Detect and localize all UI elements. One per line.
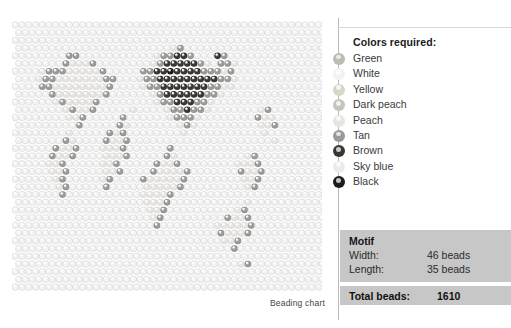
bead-grid-canvas xyxy=(12,21,322,291)
legend-item-brown: Brown xyxy=(340,143,511,158)
horizontal-divider xyxy=(338,27,511,28)
bead-swatch-icon xyxy=(333,68,345,80)
bead-swatch-icon xyxy=(333,84,345,96)
bead-grid xyxy=(12,21,322,291)
bead-swatch-icon xyxy=(333,115,345,127)
bead-swatch-icon xyxy=(333,176,345,188)
legend-item-white: White xyxy=(340,66,511,81)
bead-swatch-icon xyxy=(333,161,345,173)
total-beads-value: 1610 xyxy=(437,290,460,302)
bead-swatch-icon xyxy=(333,99,345,111)
colors-legend: Colors required: GreenWhiteYellowDark pe… xyxy=(340,36,511,190)
motif-row: Length:35 beads xyxy=(349,263,511,277)
total-beads-label: Total beads: xyxy=(349,290,410,302)
bead-swatch-icon xyxy=(333,53,345,65)
legend-item-peach: Peach xyxy=(340,113,511,128)
motif-row-key: Length: xyxy=(349,263,384,275)
legend-item-sky-blue: Sky blue xyxy=(340,159,511,174)
chart-caption: Beading chart xyxy=(0,298,325,308)
motif-row: Width:46 beads xyxy=(349,249,511,263)
motif-details-block: Motif Width:46 beadsLength:35 beads xyxy=(340,230,511,282)
legend-item-label: Peach xyxy=(353,114,383,126)
motif-heading: Motif xyxy=(349,235,511,247)
bead-swatch-icon xyxy=(333,130,345,142)
legend-item-tan: Tan xyxy=(340,128,511,143)
legend-item-label: Green xyxy=(353,52,382,64)
beading-chart-panel: Beading chart xyxy=(0,0,338,328)
total-beads-row: Total beads: 1610 xyxy=(340,286,511,305)
legend-item-label: Yellow xyxy=(353,83,383,95)
motif-row-value: 35 beads xyxy=(427,263,470,275)
legend-item-green: Green xyxy=(340,51,511,66)
legend-item-black: Black xyxy=(340,174,511,189)
legend-item-label: Dark peach xyxy=(353,98,407,110)
legend-item-label: Black xyxy=(353,175,379,187)
legend-item-label: Sky blue xyxy=(353,160,393,172)
legend-item-dark-peach: Dark peach xyxy=(340,97,511,112)
legend-title: Colors required: xyxy=(353,36,511,48)
motif-row-value: 46 beads xyxy=(427,249,470,261)
motif-row-key: Width: xyxy=(349,249,379,261)
legend-item-label: White xyxy=(353,67,380,79)
bead-swatch-icon xyxy=(333,145,345,157)
legend-item-label: Tan xyxy=(353,129,370,141)
legend-item-yellow: Yellow xyxy=(340,82,511,97)
legend-item-label: Brown xyxy=(353,144,383,156)
motif-info-table: Motif Width:46 beadsLength:35 beads Tota… xyxy=(340,230,511,305)
